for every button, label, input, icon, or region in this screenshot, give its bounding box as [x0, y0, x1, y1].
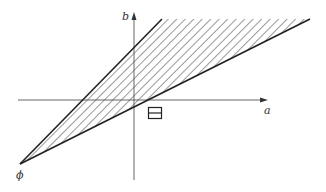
a-axis-label: a — [264, 104, 271, 117]
cone-diagram: b a ϕ — [0, 0, 326, 192]
b-axis-arrow-icon — [132, 12, 137, 20]
apex-label: ϕ — [16, 169, 24, 182]
a-axis-arrow-icon — [260, 98, 268, 103]
b-axis-label: b — [122, 10, 129, 23]
boxed-equals-marker — [149, 108, 162, 119]
